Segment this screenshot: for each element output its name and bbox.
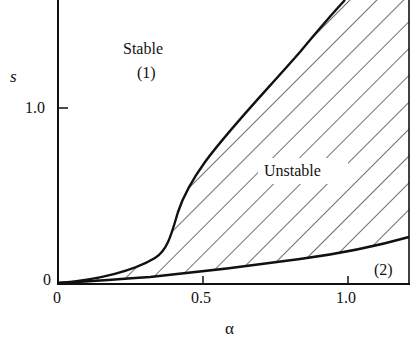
x-axis-label: α: [225, 320, 234, 337]
stable-label: Stable: [123, 41, 163, 57]
y-tick-label-0: 0: [43, 272, 51, 288]
unstable-label: Unstable: [264, 163, 321, 179]
y-tick-label-1: 1.0: [25, 100, 45, 116]
x-tick-label-1: 1.0: [336, 290, 356, 306]
region-2-label: (2): [374, 262, 393, 278]
y-axis-label: s: [10, 68, 17, 85]
stable-region-number: (1): [137, 65, 156, 81]
x-tick-label-0: 0: [53, 290, 61, 306]
stability-diagram: s 1.0 0 0 0.5 1.0 α Stable (1) Unstable …: [0, 0, 417, 346]
x-tick-label-05: 0.5: [191, 290, 211, 306]
